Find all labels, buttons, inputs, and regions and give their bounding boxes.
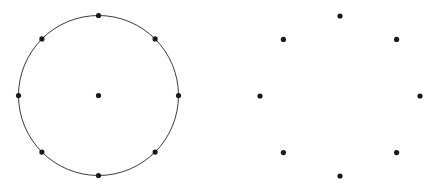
data-point-lower-right bbox=[394, 150, 399, 155]
data-point-upper-right bbox=[394, 37, 399, 42]
data-point-lower-left bbox=[39, 150, 44, 155]
data-point-lower-left bbox=[281, 150, 286, 155]
right-ring-points bbox=[257, 13, 422, 178]
data-point-bottom bbox=[337, 173, 342, 178]
data-point-right bbox=[176, 93, 181, 98]
data-point-upper-left bbox=[281, 37, 286, 42]
data-point-bottom bbox=[96, 173, 101, 178]
points-layer bbox=[16, 13, 423, 179]
data-point-top bbox=[337, 13, 342, 18]
data-point-left bbox=[16, 93, 21, 98]
data-point-center bbox=[96, 93, 101, 98]
left-center-point bbox=[96, 93, 101, 98]
data-point-lower-right bbox=[153, 150, 158, 155]
data-point-top bbox=[96, 13, 101, 18]
data-point-upper-right bbox=[153, 36, 158, 41]
data-point-upper-left bbox=[39, 36, 44, 41]
figure-canvas bbox=[0, 0, 433, 188]
figure-svg bbox=[0, 0, 433, 188]
data-point-right bbox=[417, 93, 422, 98]
data-point-left bbox=[257, 93, 262, 98]
